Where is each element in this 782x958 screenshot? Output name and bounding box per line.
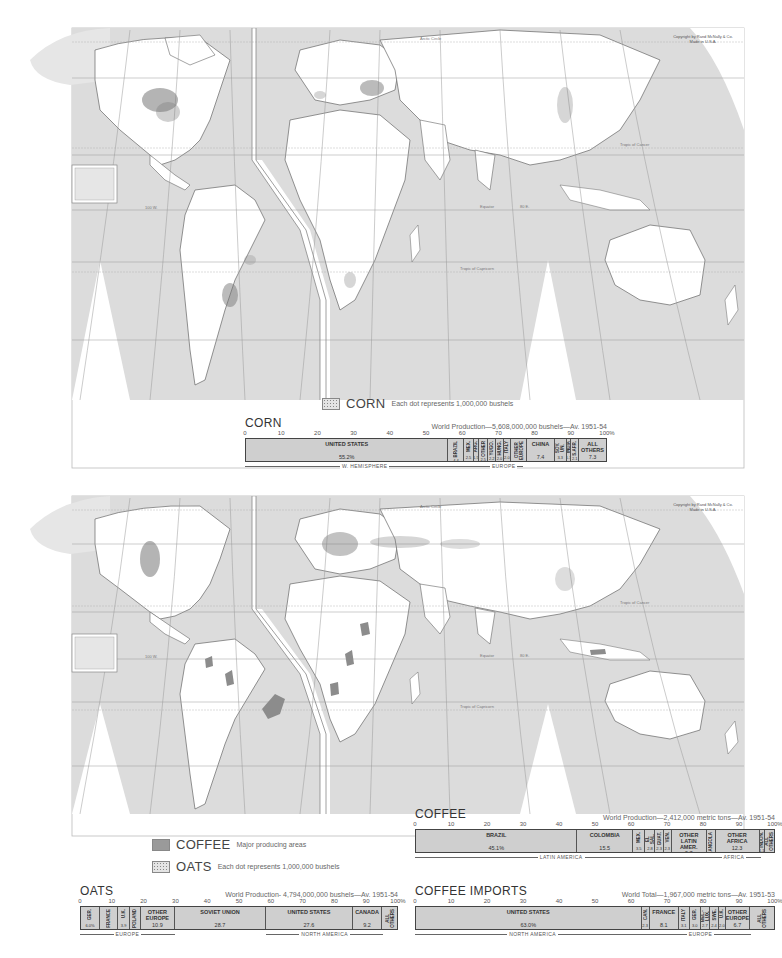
legend-title: OATS xyxy=(176,859,212,874)
chart-subtitle: World Production- 4,794,000,000 bushels—… xyxy=(225,891,398,898)
svg-text:80 E.: 80 E. xyxy=(520,204,529,209)
chart-subtitle: World Production—5,608,000,000 bushels—A… xyxy=(431,423,607,430)
chart-title: CORN xyxy=(245,416,282,430)
axis-tick-label: 40 xyxy=(204,898,211,904)
region-label: LATIN AMERICA xyxy=(538,854,585,860)
axis-tick-label: 10 xyxy=(448,898,455,904)
axis-tick-label: 70 xyxy=(664,821,671,827)
region-label: EUROPE xyxy=(687,931,715,937)
dot-pattern-swatch-icon xyxy=(152,861,170,873)
axis-tick-label: 10 xyxy=(448,821,455,827)
region-bracket: EUROPE xyxy=(484,462,523,470)
segment-value: 2.5 xyxy=(466,455,472,460)
segment-label: OTHER AFRICA xyxy=(727,832,748,844)
axis-tick-label: 90 xyxy=(736,898,743,904)
segment-label: OTHER xyxy=(481,441,486,457)
axis-tick-label: 80 xyxy=(331,898,338,904)
svg-text:100 W.: 100 W. xyxy=(145,205,157,210)
bar-segment: FRANCE8.1 xyxy=(650,907,679,929)
segment-label: ALL OTHERS xyxy=(385,909,395,928)
segment-label: ITALY xyxy=(504,441,509,453)
bar-segment: POLAND3.3 xyxy=(130,907,140,929)
segment-label: HUNG. xyxy=(497,441,502,456)
axis-tick-label: 50 xyxy=(592,898,599,904)
chart-title: COFFEE IMPORTS xyxy=(415,884,527,898)
bar-segment: UNITED STATES63.0% xyxy=(416,907,642,929)
bar-segment: SOVIET UNION28.7 xyxy=(175,907,266,929)
segment-value: 7.4 xyxy=(537,454,545,460)
axis-tick-label: 100% xyxy=(767,821,782,827)
svg-text:Equator: Equator xyxy=(480,653,495,658)
chart-title: OATS xyxy=(80,884,113,898)
bar-segment: UNITED STATES55.2% xyxy=(246,439,448,461)
chart-subtitle: World Total—1,967,000 metric tons—Av. 19… xyxy=(622,891,775,898)
axis-tick-label: 70 xyxy=(495,430,502,436)
region-label: NORTH AMERICA xyxy=(507,931,558,937)
bar-segment: VEN.2.3 xyxy=(664,830,672,852)
segment-label: ARG. xyxy=(474,441,479,452)
axis-tick-label: 40 xyxy=(556,821,563,827)
axis-tick-label: 90 xyxy=(363,898,370,904)
bar-segment: MEX.2.5 xyxy=(464,439,473,461)
svg-text:Tropic of Cancer: Tropic of Cancer xyxy=(620,142,650,147)
segment-value: 2.9 xyxy=(767,851,773,852)
segment-value: 3.3 xyxy=(132,928,138,929)
corn-map-panel: Arctic Circle Tropic of Cancer Equator T… xyxy=(0,0,782,480)
bar-segment: ALL OTHERS7.3 xyxy=(579,439,606,461)
axis-tick-label: 100% xyxy=(767,898,782,904)
chart-axis: 0102030405060708090100% xyxy=(415,898,775,906)
oats-legend: OATS Each dot represents 1,000,000 bushe… xyxy=(152,859,339,874)
segment-value: 2.0 xyxy=(719,923,725,928)
segment-label: GER. xyxy=(692,909,697,920)
region-brackets: W. HEMISPHEREEUROPE xyxy=(245,462,607,470)
segment-value: 55.2% xyxy=(339,454,355,460)
bar-segment: ALL OTHERS5. xyxy=(382,907,397,929)
axis-tick-label: 20 xyxy=(314,430,321,436)
segment-value: 2.2 xyxy=(489,456,495,461)
segment-value: 6.0% xyxy=(85,923,94,928)
chart-header: CORNWorld Production—5,608,000,000 bushe… xyxy=(245,418,607,430)
segment-value: 6.7 xyxy=(734,922,742,928)
region-bracket: NORTH AMERICA xyxy=(415,930,650,938)
segment-label: COLOMBIA xyxy=(590,832,620,838)
legend-description: Major producing areas xyxy=(237,841,307,848)
axis-tick-label: 80 xyxy=(700,898,707,904)
axis-tick-label: 80 xyxy=(531,430,538,436)
segment-value: 28.7 xyxy=(215,922,226,928)
segment-value: 2.5 xyxy=(708,852,714,853)
axis-tick-label: 50 xyxy=(236,898,243,904)
svg-text:100 W.: 100 W. xyxy=(145,654,157,659)
bar-segment: BRAZIL4.4 xyxy=(448,439,464,461)
axis-tick-label: 40 xyxy=(556,898,563,904)
solid-area-swatch-icon xyxy=(152,839,170,851)
segment-label: GER. xyxy=(87,909,92,920)
axis-tick-label: 0 xyxy=(413,821,416,827)
bar-segment: OTHER2.5 xyxy=(479,439,488,461)
segment-label: ALL OTHERS xyxy=(757,909,767,928)
segment-value: 3.1 xyxy=(681,923,687,928)
axis-tick-label: 60 xyxy=(267,898,274,904)
segment-value: 9.7 xyxy=(685,850,693,852)
region-bracket: EUROPE xyxy=(80,930,175,938)
dot-pattern-swatch-icon xyxy=(322,398,340,410)
segment-value: 2.1 xyxy=(572,456,578,461)
segment-value: 2.3 xyxy=(642,923,648,928)
chart-axis: 0102030405060708090100% xyxy=(415,821,775,829)
svg-text:Tropic of Capricorn: Tropic of Capricorn xyxy=(460,266,494,271)
segment-label: OTHER EUROPE xyxy=(514,441,524,460)
axis-tick-label: 80 xyxy=(700,821,707,827)
segment-label: FRANCE xyxy=(652,909,675,915)
region-bracket: EUROPE xyxy=(650,930,751,938)
svg-text:Arctic Circle: Arctic Circle xyxy=(420,504,442,509)
bar-segment: BRAZIL45.1% xyxy=(416,830,577,852)
axis-tick-label: 20 xyxy=(140,898,147,904)
bar-segment: SOV. UN.3.3 xyxy=(555,439,567,461)
legend-description: Each dot represents 1,000,000 bushels xyxy=(391,400,513,407)
segment-label: S.AFR. xyxy=(572,441,577,456)
axis-tick-label: 30 xyxy=(350,430,357,436)
copyright-note: Copyright by Rand McNally & Co. Made in … xyxy=(668,502,738,512)
segment-value: 1.5 xyxy=(474,455,479,460)
segment-value: 63.0% xyxy=(520,922,536,928)
segment-value: 2.8 xyxy=(647,846,653,851)
corn-legend: CORN Each dot represents 1,000,000 bushe… xyxy=(322,396,513,411)
